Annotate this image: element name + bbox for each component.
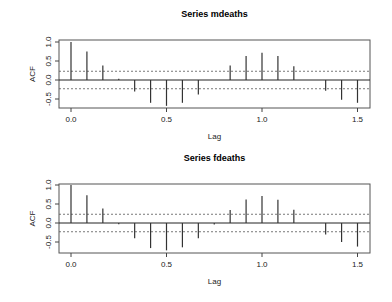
y-axis-label: ACF: [28, 210, 37, 226]
y-tick-label: 0.5: [44, 55, 53, 67]
plot-frame: [59, 184, 370, 253]
x-tick-label: 0.5: [161, 115, 173, 124]
acf-panel-mdeaths: Series mdeaths 0.00.51.01.5-0.50.00.51.0…: [0, 0, 392, 151]
y-tick-label: 1.0: [44, 36, 53, 48]
x-tick-label: 0.0: [65, 260, 77, 269]
x-tick-label: 1.5: [352, 260, 364, 269]
x-tick-label: 1.0: [256, 260, 268, 269]
x-tick-label: 0.0: [65, 115, 77, 124]
y-tick-label: 0.0: [44, 217, 53, 229]
y-tick-label: -0.5: [44, 235, 53, 249]
x-tick-label: 1.0: [256, 115, 268, 124]
x-tick-label: 0.5: [161, 260, 173, 269]
y-tick-label: 0.0: [44, 74, 53, 86]
x-tick-label: 1.5: [352, 115, 364, 124]
y-tick-label: -0.5: [44, 92, 53, 106]
y-tick-label: 0.5: [44, 198, 53, 210]
plot-frame: [59, 40, 370, 108]
acf-plot-fdeaths: 0.00.51.01.5-0.50.00.51.0LagACF: [0, 151, 392, 302]
acf-panel-fdeaths: Series fdeaths 0.00.51.01.5-0.50.00.51.0…: [0, 151, 392, 302]
y-axis-label: ACF: [28, 66, 37, 82]
x-axis-label: Lag: [208, 277, 221, 286]
x-axis-label: Lag: [208, 132, 221, 141]
y-tick-label: 1.0: [44, 179, 53, 191]
acf-plot-mdeaths: 0.00.51.01.5-0.50.00.51.0LagACF: [0, 0, 392, 151]
